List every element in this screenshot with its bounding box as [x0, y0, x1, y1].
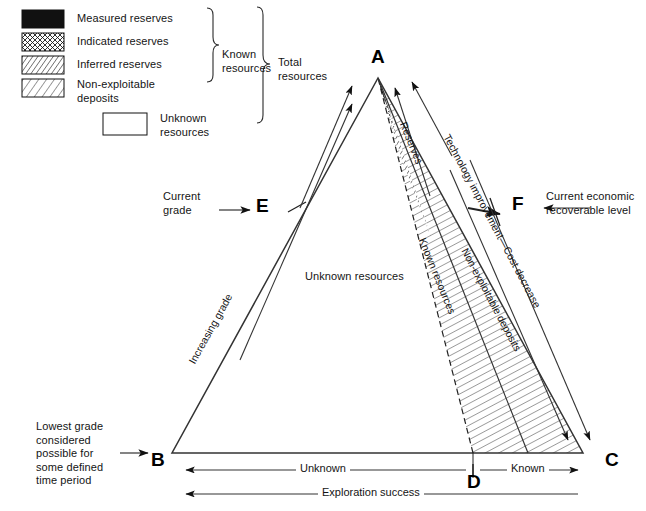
- figure-canvas: Measured reserves Indicated reserves Inf…: [0, 0, 646, 511]
- legend-swatch-inferred: [22, 56, 64, 74]
- legend-label-known-bracket: Known resources: [222, 48, 271, 75]
- tick-current-grade: [288, 202, 306, 212]
- bracket-known-resources: [207, 8, 219, 82]
- legend-swatch-indicated: [22, 33, 64, 51]
- vertex-C: C: [605, 450, 619, 469]
- legend-label-unknown: Unknown resources: [160, 112, 209, 139]
- legend-swatch-unknown: [103, 113, 147, 135]
- vertex-F: F: [512, 194, 524, 213]
- axis-label-known: Known: [507, 462, 549, 474]
- legend-swatch-nonexploitable: [22, 79, 64, 97]
- legend-label-measured: Measured reserves: [77, 12, 173, 26]
- caption-unknown-resources: Unknown resources: [305, 270, 404, 284]
- arrow-increasing-grade: [300, 86, 352, 208]
- caption-current-economic: Current economic recoverable level: [546, 190, 634, 217]
- legend-label-total-bracket: Total resources: [278, 56, 327, 83]
- arrow-increasing-grade-2: [240, 104, 352, 360]
- vertex-D: D: [467, 472, 481, 491]
- vertex-A: A: [371, 47, 385, 66]
- axis-label-exploration: Exploration success: [318, 486, 424, 498]
- caption-lowest-grade: Lowest grade considered possible for som…: [36, 420, 103, 488]
- legend-swatch-measured: [22, 10, 64, 28]
- caption-current-grade: Current grade: [163, 190, 200, 217]
- vertex-B: B: [151, 450, 165, 469]
- axis-label-unknown: Unknown: [296, 462, 350, 474]
- legend-label-indicated: Indicated reserves: [77, 35, 169, 49]
- legend-label-nonexploitable: Non-exploitable deposits: [77, 78, 155, 105]
- vertex-E: E: [256, 196, 269, 215]
- legend-label-inferred: Inferred reserves: [77, 58, 162, 72]
